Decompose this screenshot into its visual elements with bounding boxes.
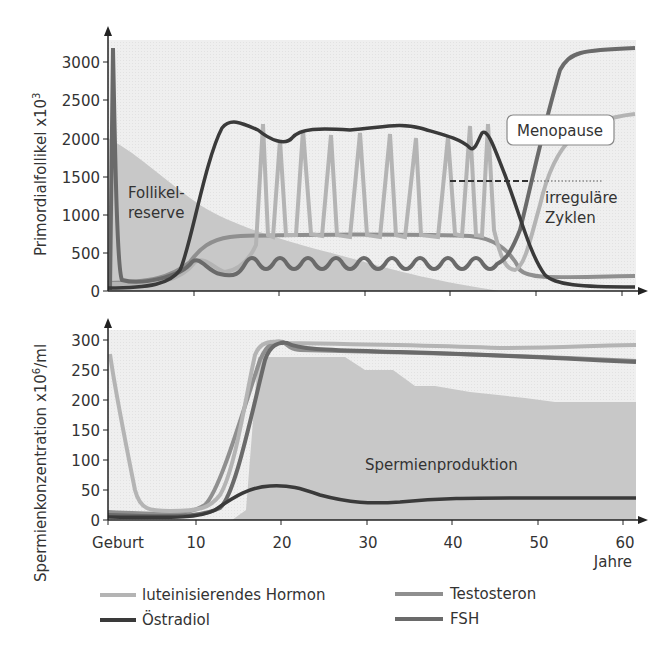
- svg-text:Testosteron: Testosteron: [449, 585, 536, 603]
- top-ytick-2000: 2000: [62, 131, 100, 149]
- bottom-ytick-150: 150: [71, 422, 100, 440]
- xtick-60: 60: [615, 534, 634, 552]
- xtick-birth: Geburt: [92, 534, 144, 552]
- x-axis-label: Jahre: [593, 553, 632, 571]
- top-ytick-0: 0: [90, 283, 100, 301]
- legend-item-lh: luteinisierendes Hormon: [100, 586, 325, 604]
- top-ytick-1000: 1000: [62, 207, 100, 225]
- bottom-panel: Spermienproduktion 0 50 100 150 200: [31, 318, 648, 582]
- bottom-ytick-250: 250: [71, 362, 100, 380]
- svg-text:Östradiol: Östradiol: [142, 610, 210, 629]
- svg-text:luteinisierendes Hormon: luteinisierendes Hormon: [142, 586, 325, 604]
- legend-item-fsh: FSH: [395, 610, 479, 628]
- xtick-50: 50: [529, 534, 548, 552]
- top-panel: Menopause irreguläre Zyklen Follikel- re…: [31, 26, 648, 301]
- legend-item-estradiol: Östradiol: [100, 610, 210, 629]
- top-x-axis-arrow: [638, 287, 648, 295]
- bottom-x-axis-arrow: [638, 516, 648, 524]
- legend: luteinisierendes Hormon Testosteron Östr…: [100, 585, 536, 629]
- bottom-y-axis-label: Spermienkonzentration x106/ml: [31, 344, 50, 582]
- follicle-reserve-label-2: reserve: [128, 204, 184, 222]
- top-y-axis-label: Primordialfollikel x103: [31, 93, 50, 256]
- bottom-y-axis-arrow: [104, 318, 112, 328]
- xtick-30: 30: [358, 534, 377, 552]
- xtick-20: 20: [272, 534, 291, 552]
- top-ytick-3000: 3000: [62, 54, 100, 72]
- bottom-ytick-100: 100: [71, 452, 100, 470]
- top-ytick-1500: 1500: [62, 169, 100, 187]
- bottom-ytick-50: 50: [81, 482, 100, 500]
- sperm-production-label: Spermienproduktion: [365, 456, 518, 474]
- top-ytick-500: 500: [71, 245, 100, 263]
- svg-text:FSH: FSH: [450, 610, 479, 628]
- bottom-ytick-0: 0: [90, 512, 100, 530]
- irregular-cycles-label-1: irreguläre: [545, 189, 618, 207]
- xtick-40: 40: [443, 534, 462, 552]
- bottom-ytick-300: 300: [71, 332, 100, 350]
- follicle-reserve-label-1: Follikel-: [128, 184, 185, 202]
- top-ytick-2500: 2500: [62, 92, 100, 110]
- xtick-10: 10: [186, 534, 205, 552]
- legend-item-testosterone: Testosteron: [395, 585, 536, 603]
- bottom-ytick-200: 200: [71, 392, 100, 410]
- top-y-axis-arrow: [104, 26, 112, 36]
- menopause-label: Menopause: [517, 122, 603, 140]
- hormone-chart: Menopause irreguläre Zyklen Follikel- re…: [0, 0, 671, 651]
- irregular-cycles-label-2: Zyklen: [545, 209, 596, 227]
